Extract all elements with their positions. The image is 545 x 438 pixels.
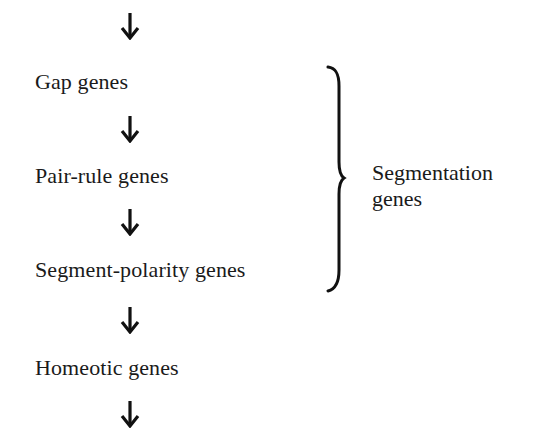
step-segment-polarity-genes: Segment-polarity genes bbox=[35, 258, 246, 282]
right-brace-icon bbox=[322, 64, 352, 294]
down-arrow-icon bbox=[120, 12, 140, 40]
group-label-line2: genes bbox=[372, 186, 493, 212]
down-arrow-icon bbox=[120, 208, 140, 236]
down-arrow-icon bbox=[120, 306, 140, 334]
group-label-line1: Segmentation bbox=[372, 160, 493, 186]
step-pair-rule-genes: Pair-rule genes bbox=[35, 164, 169, 188]
step-gap-genes: Gap genes bbox=[35, 70, 128, 94]
down-arrow-icon bbox=[120, 400, 140, 428]
step-homeotic-genes: Homeotic genes bbox=[35, 356, 179, 380]
group-label-segmentation-genes: Segmentation genes bbox=[372, 160, 493, 212]
down-arrow-icon bbox=[120, 115, 140, 143]
